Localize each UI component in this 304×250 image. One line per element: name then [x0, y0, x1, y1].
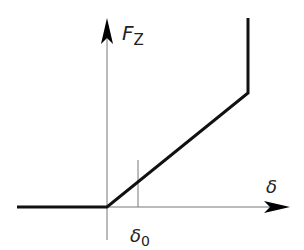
- force-displacement-diagram: FZ δ δ0: [0, 0, 304, 250]
- y-axis-label: FZ: [122, 21, 144, 49]
- x-axis-label: δ: [266, 176, 277, 197]
- delta0-label: δ0: [130, 225, 150, 249]
- force-curve: [17, 18, 248, 207]
